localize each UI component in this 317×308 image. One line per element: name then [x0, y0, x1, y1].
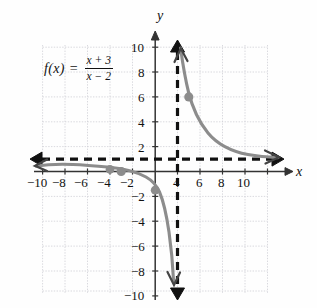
y-tick-label--2: −2	[131, 190, 145, 203]
x-tick-label--6: −6	[74, 176, 88, 189]
x-tick-label--2: −2	[120, 176, 134, 189]
x-tick-label-4: 4	[173, 176, 180, 189]
rational-function-graph-figure: f(x) = x + 3 x − 2 x y −10 −8 −6 −4 −2 4…	[0, 0, 317, 308]
x-tick-label-6: 6	[196, 176, 203, 189]
x-tick-label-10: 10	[237, 176, 250, 189]
formula-numerator: x + 3	[85, 54, 113, 68]
y-tick-label--10: −10	[124, 289, 144, 302]
y-tick-label--6: −6	[131, 240, 145, 253]
formula-function-name: f(x)	[44, 62, 65, 76]
x-tick-label--8: −8	[52, 176, 66, 189]
y-tick-label-2: 2	[138, 141, 145, 154]
formula-equals: =	[70, 62, 78, 76]
formula-fraction: x + 3 x − 2	[85, 54, 113, 83]
function-formula: f(x) = x + 3 x − 2	[44, 54, 113, 83]
curve-right-branch	[181, 48, 279, 158]
y-axis-arrowhead	[151, 31, 159, 40]
point-3-6	[184, 92, 193, 101]
x-tick-label-8: 8	[218, 176, 225, 189]
y-tick-label-8: 8	[138, 66, 145, 79]
x-tick-label--10: −10	[27, 176, 47, 189]
x-tick-label--4: −4	[97, 176, 111, 189]
y-tick-label-4: 4	[138, 116, 145, 129]
y-tick-label--8: −8	[131, 265, 145, 278]
point-y-intercept	[151, 186, 160, 195]
vertical-asymptote-arrow-down	[171, 288, 185, 300]
graph-canvas	[0, 0, 317, 308]
curve-arrowheads	[35, 49, 279, 286]
x-axis-label: x	[296, 165, 302, 179]
y-tick-label--4: −4	[131, 215, 145, 228]
y-axis-label: y	[157, 9, 163, 23]
y-tick-label-6: 6	[138, 91, 145, 104]
point-neg4	[106, 165, 115, 174]
y-tick-label-10: 10	[131, 41, 144, 54]
x-axis-arrowhead	[285, 168, 293, 176]
formula-denominator: x − 2	[85, 69, 113, 83]
